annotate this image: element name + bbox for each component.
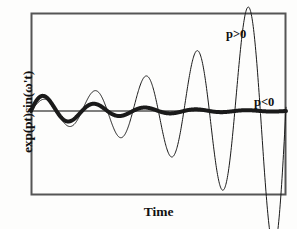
- annotation-p-greater-zero: p>0: [226, 27, 246, 42]
- annotation-p-less-zero: p<0: [254, 95, 274, 110]
- curve-p-greater-zero: [31, 7, 286, 229]
- figure-panel: exp(pt)sin(ω't) Time p>0 p<0: [0, 0, 297, 229]
- x-axis-label: Time: [31, 204, 286, 220]
- y-axis-label: exp(pt)sin(ω't): [20, 37, 36, 187]
- plot-frame: [32, 14, 286, 195]
- curve-p-less-zero: [31, 96, 286, 122]
- plot-area: [0, 0, 297, 229]
